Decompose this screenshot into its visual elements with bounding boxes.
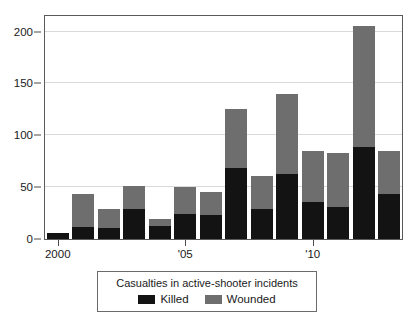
- x-tick-label-2010: '10: [305, 248, 320, 260]
- bar-group-2011: [327, 153, 349, 239]
- x-tick-mark-2010: [313, 240, 314, 246]
- bar-segment-killed-2009: [276, 174, 298, 239]
- y-tick-label-150: 150: [14, 77, 33, 89]
- bar-group-2005: [174, 187, 196, 239]
- legend-title: Casualties in active-shooter incidents: [104, 277, 310, 289]
- bar-group-2013: [378, 151, 400, 239]
- bars-layer: [45, 16, 402, 239]
- bar-group-2004: [149, 219, 171, 239]
- bar-segment-killed-2011: [327, 207, 349, 239]
- bar-group-2003: [123, 186, 145, 239]
- y-tick-label-100: 100: [14, 129, 33, 141]
- chart-figure: 050100150200 2000'05'10 Casualties in ac…: [0, 0, 414, 321]
- legend-label-killed: Killed: [160, 293, 188, 305]
- bar-segment-killed-2002: [98, 228, 120, 239]
- bar-segment-wounded-2002: [98, 209, 120, 228]
- bar-group-2002: [98, 209, 120, 239]
- clipped-headline: [8, 0, 268, 4]
- x-tick-mark-2005: [185, 240, 186, 246]
- legend-entry-killed: Killed: [138, 293, 188, 305]
- bar-segment-killed-2012: [353, 147, 375, 239]
- bar-segment-wounded-2012: [353, 26, 375, 146]
- bar-group-2008: [251, 176, 273, 239]
- bar-group-2009: [276, 94, 298, 239]
- bar-segment-killed-2008: [251, 209, 273, 239]
- bar-segment-killed-2007: [225, 168, 247, 239]
- bar-segment-wounded-2010: [302, 151, 324, 202]
- y-tick-mark-50: [34, 187, 41, 188]
- bar-segment-wounded-2005: [174, 187, 196, 214]
- y-tick-label-200: 200: [14, 26, 33, 38]
- bar-segment-wounded-2008: [251, 176, 273, 209]
- bar-segment-killed-2010: [302, 202, 324, 239]
- bar-segment-wounded-2003: [123, 186, 145, 209]
- bar-group-2012: [353, 26, 375, 239]
- chart-legend: Casualties in active-shooter incidents K…: [97, 271, 317, 312]
- bar-segment-wounded-2011: [327, 153, 349, 207]
- y-axis: 050100150200: [0, 0, 44, 260]
- bar-group-2000: [47, 233, 69, 239]
- bar-segment-killed-2001: [72, 227, 94, 239]
- bar-segment-wounded-2006: [200, 192, 222, 215]
- legend-entries: KilledWounded: [104, 293, 310, 305]
- legend-entry-wounded: Wounded: [205, 293, 276, 305]
- y-tick-mark-200: [34, 31, 41, 32]
- y-tick-label-50: 50: [20, 181, 33, 193]
- legend-swatch-killed: [138, 295, 155, 304]
- x-tick-mark-2000: [58, 240, 59, 246]
- bar-group-2010: [302, 151, 324, 239]
- bar-segment-killed-2003: [123, 209, 145, 239]
- bar-segment-killed-2013: [378, 194, 400, 239]
- x-tick-label-2005: '05: [178, 248, 193, 260]
- x-tick-label-2000: 2000: [45, 248, 71, 260]
- legend-label-wounded: Wounded: [227, 293, 276, 305]
- y-tick-label-0: 0: [27, 233, 33, 245]
- x-axis: 2000'05'10: [44, 240, 403, 266]
- bar-segment-wounded-2001: [72, 194, 94, 226]
- bar-segment-killed-2004: [149, 226, 171, 239]
- bar-segment-killed-2006: [200, 215, 222, 239]
- bar-segment-killed-2005: [174, 214, 196, 239]
- y-tick-mark-150: [34, 83, 41, 84]
- bar-group-2001: [72, 194, 94, 239]
- y-tick-mark-0: [34, 239, 41, 240]
- bar-segment-wounded-2007: [225, 109, 247, 168]
- bar-group-2006: [200, 192, 222, 239]
- bar-group-2007: [225, 109, 247, 239]
- y-tick-mark-100: [34, 135, 41, 136]
- bar-segment-wounded-2013: [378, 151, 400, 195]
- bar-segment-wounded-2009: [276, 94, 298, 174]
- legend-swatch-wounded: [205, 295, 222, 304]
- bar-segment-killed-2000: [47, 233, 69, 239]
